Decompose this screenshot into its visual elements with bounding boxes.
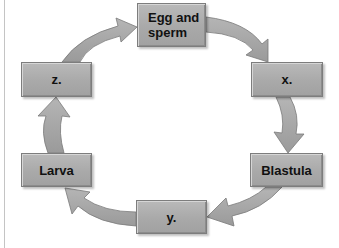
arrow-larva-to-z xyxy=(38,97,70,153)
stage-label-y: y. xyxy=(167,210,177,225)
arrow-blastula-to-y xyxy=(207,187,282,226)
arrow-egg-to-x xyxy=(206,17,268,62)
stage-box-larva: Larva xyxy=(21,153,92,187)
arrow-x-to-blastula xyxy=(274,97,304,153)
stage-label-x: x. xyxy=(282,72,293,87)
stage-label-blastula: Blastula xyxy=(261,163,312,178)
stage-label-z: z. xyxy=(51,72,61,87)
stage-box-z: z. xyxy=(21,62,92,97)
stage-label-larva: Larva xyxy=(39,163,74,178)
stage-box-x: x. xyxy=(251,62,323,97)
stage-label-egg-and-sperm: Egg and sperm xyxy=(148,10,200,40)
stage-box-y: y. xyxy=(136,200,207,234)
stage-box-blastula: Blastula xyxy=(250,153,323,187)
arrow-z-to-egg xyxy=(62,18,137,62)
stage-box-egg-and-sperm: Egg and sperm xyxy=(137,3,206,47)
arrow-y-to-larva xyxy=(65,188,136,226)
